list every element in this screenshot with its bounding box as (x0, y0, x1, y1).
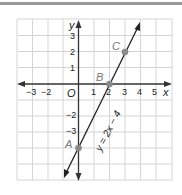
x-tick-label: 3 (122, 87, 127, 97)
point-b-label: B (96, 71, 103, 83)
grid (17, 19, 172, 180)
y-axis-label: y (68, 19, 76, 31)
y-tick-label: −3 (66, 126, 76, 136)
point-a (75, 145, 82, 152)
x-axis-label: x (162, 86, 169, 98)
x-tick-label: 5 (152, 87, 157, 97)
y-tick-label: −2 (66, 110, 76, 120)
y-tick-label: 3 (70, 31, 75, 41)
y-tick-label: 1 (70, 63, 75, 73)
x-tick-label: −3 (26, 87, 36, 97)
line-equation-label: y = 2x − 4 (93, 108, 123, 153)
y-tick-label: 2 (70, 47, 75, 57)
coordinate-graph: A B C y x O −3 −2 1 2 3 4 5 3 2 1 −2 −3 … (0, 0, 182, 195)
point-c (122, 49, 129, 56)
origin-label: O (67, 87, 76, 99)
point-c-label: C (112, 40, 120, 52)
x-tick-label: 1 (91, 87, 96, 97)
point-a-label: A (64, 138, 72, 150)
x-tick-label: −2 (41, 87, 51, 97)
x-tick-label: 2 (106, 87, 111, 97)
x-tick-label: 4 (137, 87, 142, 97)
